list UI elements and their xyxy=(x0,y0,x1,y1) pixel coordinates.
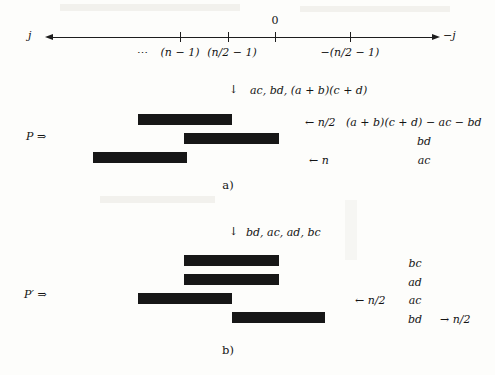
panel-a-row-label: P ⇒ xyxy=(26,131,46,142)
axis-tick-mark xyxy=(350,32,351,42)
panel-a-caption: a) xyxy=(222,180,233,192)
panel-b-expression-4: bd xyxy=(408,314,422,325)
panel-a-input-list: ac, bd, (a + b)(c + d) xyxy=(250,85,367,96)
scan-artifact xyxy=(100,196,215,203)
panel-a-expression-3: ac xyxy=(418,155,431,166)
axis-tick-mark xyxy=(180,32,181,42)
panel-b-arrow-label-3: ← n/2 xyxy=(355,295,386,306)
panel-a-down-arrow: ↓ xyxy=(229,84,238,95)
panel-a-bar-1 xyxy=(138,114,232,125)
scan-artifact xyxy=(60,4,240,11)
panel-b-down-arrow: ↓ xyxy=(229,226,238,237)
axis-tick-mark xyxy=(228,32,229,42)
panel-b-bar-3 xyxy=(138,293,232,304)
panel-a-expression-1: (a + b)(c + d) − ac − bd xyxy=(346,117,482,128)
panel-b-row-label: P′ ⇒ xyxy=(24,289,47,300)
axis-tick-label-0: (n − 1) xyxy=(161,47,200,58)
axis-tick-label-1: (n/2 − 1) xyxy=(207,47,257,58)
panel-b-input-list: bd, ac, ad, bc xyxy=(246,227,321,238)
panel-a-bar-3 xyxy=(93,152,187,163)
panel-b-expression-2: ad xyxy=(408,277,422,288)
axis-right-arrowhead xyxy=(432,34,440,40)
axis-zero-label: 0 xyxy=(272,15,279,26)
axis-right-label: −j xyxy=(443,30,456,41)
panel-a-arrow-label-3: ← n xyxy=(309,155,329,166)
panel-b-expression-3: ac xyxy=(409,295,422,306)
panel-b-trailing-label-4: → n/2 xyxy=(440,314,471,325)
axis-left-label: j xyxy=(28,30,31,41)
axis-ellipsis: ⋯ xyxy=(137,48,148,59)
panel-b-expression-1: bc xyxy=(408,258,421,269)
panel-b-caption: b) xyxy=(222,345,234,357)
panel-a-arrow-label-1: ← n/2 xyxy=(305,117,336,128)
scan-artifact xyxy=(300,6,450,12)
panel-a-expression-2: bd xyxy=(417,136,431,147)
axis-tick-label-3: −(n/2 − 1) xyxy=(321,47,380,58)
axis-line xyxy=(50,37,435,38)
panel-a-bar-2 xyxy=(184,133,279,144)
axis-tick-mark xyxy=(275,32,276,42)
panel-b-bar-2 xyxy=(184,274,279,285)
panel-b-bar-4 xyxy=(232,312,325,323)
figure-canvas: j −j 0 ⋯ (n − 1) (n/2 − 1) −(n/2 − 1) ↓ … xyxy=(0,0,495,375)
panel-b-bar-1 xyxy=(184,255,279,266)
scan-artifact xyxy=(345,200,357,260)
